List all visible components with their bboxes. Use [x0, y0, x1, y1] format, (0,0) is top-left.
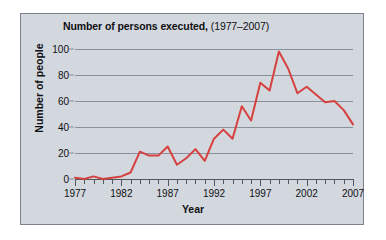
y-axis-tick	[69, 127, 74, 128]
x-axis-major-tick	[260, 179, 261, 186]
y-axis-tick-label: 100	[52, 44, 69, 55]
executions-line-series	[75, 49, 353, 180]
y-axis-tick-label: 0	[63, 174, 69, 185]
chart-title-main: Number of persons executed,	[63, 20, 208, 32]
y-axis-tick	[69, 75, 74, 76]
x-axis-major-tick	[168, 179, 169, 186]
chart-title: Number of persons executed, (1977–2007)	[63, 20, 269, 32]
y-axis-title: Number of people	[33, 36, 45, 140]
x-axis-major-tick	[353, 179, 354, 186]
chart-title-range: (1977–2007)	[211, 20, 269, 32]
x-axis-tick-label: 1997	[249, 188, 271, 199]
x-axis-tick-label: 2007	[342, 188, 364, 199]
x-axis-tick-label: 1977	[64, 188, 86, 199]
y-axis-tick	[69, 179, 74, 180]
y-axis-tick-label: 80	[58, 70, 69, 81]
x-axis-major-tick	[75, 179, 76, 186]
y-axis-tick-label: 60	[58, 96, 69, 107]
y-axis-tick	[69, 49, 74, 50]
x-axis-title: Year	[21, 203, 365, 215]
x-axis-major-tick	[214, 179, 215, 186]
x-axis-major-tick	[121, 179, 122, 186]
chart-screenshot: Number of persons executed, (1977–2007) …	[0, 0, 386, 240]
x-axis-tick-label: 1992	[203, 188, 225, 199]
y-axis-tick	[69, 153, 74, 154]
y-axis-tick	[69, 101, 74, 102]
x-axis-tick-label: 1982	[110, 188, 132, 199]
x-axis-tick-label: 2002	[296, 188, 318, 199]
y-axis-tick-label: 40	[58, 122, 69, 133]
x-axis-major-tick	[307, 179, 308, 186]
chart-panel: Number of persons executed, (1977–2007) …	[20, 13, 364, 225]
x-axis-tick-label: 1987	[157, 188, 179, 199]
y-axis-tick-label: 20	[58, 148, 69, 159]
series-polyline	[75, 52, 353, 179]
